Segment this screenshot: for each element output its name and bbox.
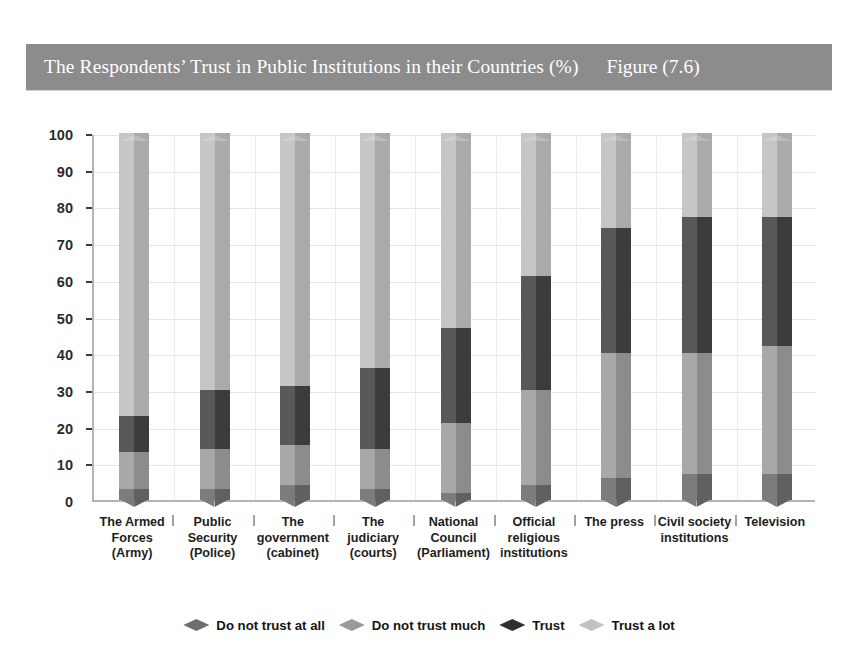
bar-segment[interactable] (280, 133, 310, 386)
bar-segment[interactable] (119, 133, 149, 416)
bar-segment-face-right (215, 390, 230, 449)
bar-column[interactable] (682, 135, 712, 500)
bar-segment[interactable] (360, 368, 390, 449)
bar-segment[interactable] (119, 452, 149, 489)
bar-column[interactable] (601, 135, 631, 500)
bar-point-right (456, 499, 471, 507)
bar-segment[interactable] (360, 449, 390, 489)
bar-point-right (697, 499, 712, 507)
bar-segment-face-left (521, 133, 536, 276)
bar-cap-right (536, 135, 551, 141)
bar-segment-face-right (134, 416, 149, 453)
bar-bottom-point (521, 499, 551, 507)
bar-segment[interactable] (762, 346, 792, 474)
bar-segment[interactable] (521, 276, 551, 390)
bar-segment[interactable] (280, 445, 310, 485)
bar-segment-face-left (762, 133, 777, 217)
figure-number-label: Figure (7.6) (607, 56, 700, 78)
gridline-x (496, 135, 497, 500)
bar-segment-face-left (682, 217, 697, 353)
bar-point-right (215, 499, 230, 507)
bar-cap-right (295, 135, 310, 141)
bar-segment[interactable] (441, 133, 471, 328)
x-axis-category-line: (cabinet) (253, 546, 333, 562)
bar-segment[interactable] (441, 328, 471, 423)
bar-segment[interactable] (762, 217, 792, 345)
bar-segment[interactable] (601, 133, 631, 228)
chart-legend: Do not trust at allDo not trust muchTrus… (26, 608, 832, 642)
bar-segment-face-right (295, 386, 310, 445)
bar-segment-face-left (360, 368, 375, 449)
bar-bottom-point (119, 499, 149, 507)
bar-cap-left (441, 135, 456, 141)
bar-segment-face-right (536, 133, 551, 276)
gridline-x (174, 135, 175, 500)
bar-cap-left (601, 135, 616, 141)
bar-segment-face-right (295, 133, 310, 386)
legend-item[interactable]: Trust (499, 618, 564, 633)
y-axis-tick-label: 60 (13, 274, 73, 290)
bar-segment-face-left (601, 133, 616, 228)
bar-segment[interactable] (360, 133, 390, 368)
bar-segment[interactable] (521, 390, 551, 485)
bar-segment-face-right (616, 133, 631, 228)
legend-item[interactable]: Do not trust much (339, 618, 486, 633)
gridline-x (255, 135, 256, 500)
bar-segment[interactable] (682, 353, 712, 474)
bar-segment[interactable] (682, 217, 712, 353)
bar-segment-face-left (682, 353, 697, 474)
bar-top-cap (441, 135, 471, 141)
bar-segment-face-left (441, 328, 456, 423)
bar-segment[interactable] (601, 228, 631, 353)
bar-segment[interactable] (682, 133, 712, 217)
bar-segment-face-right (697, 474, 712, 500)
bar-segment-face-right (616, 228, 631, 353)
bar-segment[interactable] (280, 386, 310, 445)
x-axis-category-line: religious (494, 531, 574, 547)
bar-segment[interactable] (521, 485, 551, 500)
bar-segment-face-left (601, 228, 616, 353)
bar-segment-face-left (441, 133, 456, 328)
bar-segment[interactable] (441, 423, 471, 493)
bar-segment[interactable] (601, 478, 631, 500)
legend-item[interactable]: Do not trust at all (183, 618, 324, 633)
bar-segment-face-left (280, 386, 295, 445)
bar-segment[interactable] (119, 416, 149, 453)
y-axis-tick-label: 10 (13, 457, 73, 473)
bar-column[interactable] (441, 135, 471, 500)
bar-segment-face-right (375, 449, 390, 489)
bar-column[interactable] (280, 135, 310, 500)
bar-top-cap (762, 135, 792, 141)
bar-segment[interactable] (200, 449, 230, 489)
bar-segment[interactable] (762, 474, 792, 500)
bar-bottom-point (280, 499, 310, 507)
bar-segment[interactable] (601, 353, 631, 478)
y-axis-tick-mark (86, 428, 92, 430)
bar-column[interactable] (360, 135, 390, 500)
y-axis-tick-label: 50 (13, 311, 73, 327)
x-axis-category-line: Council (413, 531, 493, 547)
bar-column[interactable] (762, 135, 792, 500)
bar-segment[interactable] (200, 390, 230, 449)
bar-segment-face-right (215, 449, 230, 489)
legend-item[interactable]: Trust a lot (579, 618, 675, 633)
bar-segment-face-left (119, 416, 134, 453)
bar-column[interactable] (200, 135, 230, 500)
bar-segment-face-right (697, 133, 712, 217)
bar-column[interactable] (521, 135, 551, 500)
bar-segment-face-right (134, 133, 149, 416)
bar-cap-right (134, 135, 149, 141)
bar-segment[interactable] (762, 133, 792, 217)
x-axis-category-line: Civil society (654, 515, 734, 531)
bar-column[interactable] (119, 135, 149, 500)
bar-segment-face-right (134, 452, 149, 489)
bar-segment[interactable] (682, 474, 712, 500)
bar-segment[interactable] (521, 133, 551, 276)
y-axis-tick-mark (86, 134, 92, 136)
bar-segment-face-left (521, 485, 536, 500)
bar-segment-face-left (762, 346, 777, 474)
x-axis-category-line: government (253, 531, 333, 547)
bar-segment[interactable] (200, 133, 230, 390)
bar-segment[interactable] (280, 485, 310, 500)
bar-segment-face-left (762, 217, 777, 345)
